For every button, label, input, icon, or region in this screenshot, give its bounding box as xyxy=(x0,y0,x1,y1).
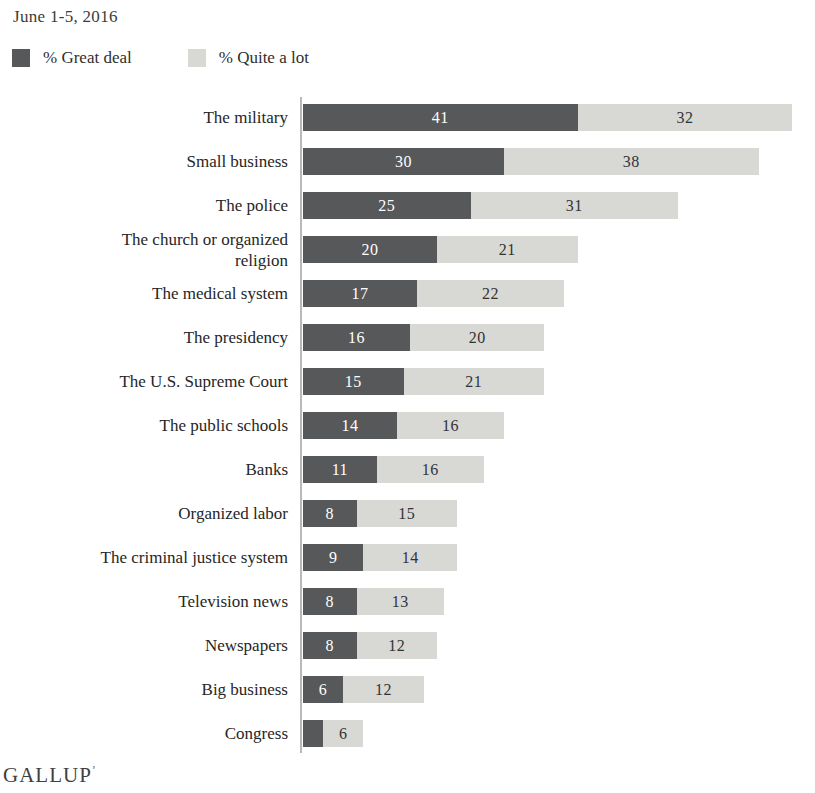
category-label: The church or organized religion xyxy=(76,236,288,263)
value-label: 6 xyxy=(339,725,348,743)
value-label: 8 xyxy=(326,593,335,611)
bar-group: 1722 xyxy=(303,280,564,307)
category-label: Organized labor xyxy=(76,500,288,527)
bar-group: 3038 xyxy=(303,148,759,175)
value-label: 12 xyxy=(388,637,405,655)
bar-row: Big business612 xyxy=(0,676,815,703)
value-label: 14 xyxy=(402,549,419,567)
value-label: 11 xyxy=(332,461,348,479)
bar-group: 6 xyxy=(303,720,363,747)
segment-great-deal: 11 xyxy=(303,456,377,483)
bar-group: 2021 xyxy=(303,236,578,263)
segment-great-deal: 9 xyxy=(303,544,363,571)
bar-group: 4132 xyxy=(303,104,792,131)
value-label: 21 xyxy=(465,373,482,391)
bar-group: 2531 xyxy=(303,192,678,219)
segment-quite-a-lot: 15 xyxy=(357,500,458,527)
category-label: Small business xyxy=(76,148,288,175)
value-label: 20 xyxy=(469,329,486,347)
segment-great-deal: 30 xyxy=(303,148,504,175)
bar-group: 1521 xyxy=(303,368,544,395)
segment-quite-a-lot: 21 xyxy=(437,236,578,263)
bar-group: 1620 xyxy=(303,324,544,351)
segment-quite-a-lot: 12 xyxy=(343,676,423,703)
segment-quite-a-lot: 31 xyxy=(471,192,679,219)
value-label: 41 xyxy=(432,109,449,127)
segment-quite-a-lot: 12 xyxy=(357,632,437,659)
segment-quite-a-lot: 38 xyxy=(504,148,759,175)
value-label: 9 xyxy=(329,549,338,567)
value-label: 15 xyxy=(398,505,415,523)
value-label: 16 xyxy=(422,461,439,479)
bar-row: The public schools1416 xyxy=(0,412,815,439)
value-label: 8 xyxy=(326,637,335,655)
segment-quite-a-lot: 22 xyxy=(417,280,564,307)
segment-quite-a-lot: 14 xyxy=(363,544,457,571)
value-label: 17 xyxy=(351,285,368,303)
bar-row: Television news813 xyxy=(0,588,815,615)
bar-row: The criminal justice system914 xyxy=(0,544,815,571)
segment-great-deal: 20 xyxy=(303,236,437,263)
gallup-logo: GALLUP’ xyxy=(3,763,97,788)
value-label: 12 xyxy=(375,681,392,699)
value-label: 16 xyxy=(442,417,459,435)
gallup-logo-mark: ’ xyxy=(92,763,97,777)
category-label: The military xyxy=(76,104,288,131)
segment-great-deal: 16 xyxy=(303,324,410,351)
segment-great-deal xyxy=(303,720,323,747)
category-label: Banks xyxy=(76,456,288,483)
segment-quite-a-lot: 20 xyxy=(410,324,544,351)
gallup-confidence-chart-page: June 1-5, 2016 % Great deal % Quite a lo… xyxy=(0,0,815,793)
category-label: Television news xyxy=(76,588,288,615)
value-label: 8 xyxy=(326,505,335,523)
value-label: 16 xyxy=(348,329,365,347)
bar-group: 612 xyxy=(303,676,424,703)
segment-quite-a-lot: 32 xyxy=(578,104,792,131)
segment-quite-a-lot: 21 xyxy=(404,368,545,395)
value-label: 20 xyxy=(362,241,379,259)
segment-great-deal: 25 xyxy=(303,192,471,219)
bar-row: The presidency1620 xyxy=(0,324,815,351)
bar-row: Small business3038 xyxy=(0,148,815,175)
segment-great-deal: 6 xyxy=(303,676,343,703)
value-label: 38 xyxy=(623,153,640,171)
value-label: 31 xyxy=(566,197,583,215)
bar-row: The police2531 xyxy=(0,192,815,219)
category-label: The police xyxy=(76,192,288,219)
bar-row: Congress6 xyxy=(0,720,815,747)
value-label: 21 xyxy=(499,241,516,259)
bar-row: Organized labor815 xyxy=(0,500,815,527)
bar-row: Banks1116 xyxy=(0,456,815,483)
bar-group: 812 xyxy=(303,632,437,659)
gallup-logo-text: GALLUP xyxy=(3,763,92,787)
bar-group: 1416 xyxy=(303,412,504,439)
segment-great-deal: 15 xyxy=(303,368,404,395)
bar-row: The medical system1722 xyxy=(0,280,815,307)
bar-group: 914 xyxy=(303,544,457,571)
category-label: The criminal justice system xyxy=(76,544,288,571)
segment-great-deal: 8 xyxy=(303,500,357,527)
bar-row: The church or organized religion2021 xyxy=(0,236,815,263)
value-label: 32 xyxy=(676,109,693,127)
category-label: The medical system xyxy=(76,280,288,307)
bar-row: The military4132 xyxy=(0,104,815,131)
category-label: Newspapers xyxy=(76,632,288,659)
segment-great-deal: 8 xyxy=(303,632,357,659)
category-label: The public schools xyxy=(76,412,288,439)
bar-row: Newspapers812 xyxy=(0,632,815,659)
value-label: 30 xyxy=(395,153,412,171)
category-label: The presidency xyxy=(76,324,288,351)
bar-group: 815 xyxy=(303,500,457,527)
segment-quite-a-lot: 16 xyxy=(377,456,484,483)
segment-great-deal: 14 xyxy=(303,412,397,439)
segment-quite-a-lot: 13 xyxy=(357,588,444,615)
value-label: 25 xyxy=(378,197,395,215)
category-label: The U.S. Supreme Court xyxy=(76,368,288,395)
segment-great-deal: 17 xyxy=(303,280,417,307)
segment-quite-a-lot: 6 xyxy=(323,720,363,747)
chart: The military4132Small business3038The po… xyxy=(0,0,815,760)
category-label: Big business xyxy=(76,676,288,703)
value-label: 15 xyxy=(345,373,362,391)
segment-quite-a-lot: 16 xyxy=(397,412,504,439)
bar-group: 1116 xyxy=(303,456,484,483)
